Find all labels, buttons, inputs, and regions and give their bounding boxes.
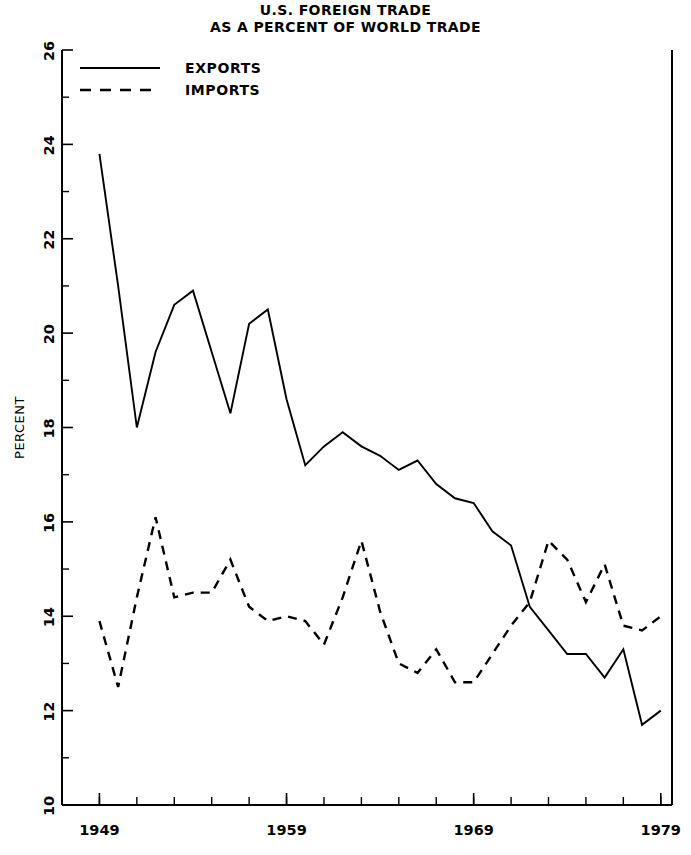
x-tick-label: 1959 [266,822,306,838]
chart-legend: EXPORTS IMPORTS [80,60,262,98]
y-tick-label: 16 [41,513,57,533]
x-tick-label: 1979 [641,822,681,838]
y-tick-label: 14 [41,607,57,627]
x-tick-label: 1969 [453,822,493,838]
y-tick-label: 12 [41,702,57,722]
y-axis-ticks [62,50,73,805]
series-line-imports [99,517,660,687]
axes-group [62,50,672,805]
legend-label-exports: EXPORTS [185,60,262,76]
y-tick-label: 18 [41,418,57,438]
x-axis-tick-labels: 1949195919691979 [79,822,681,838]
chart-figure: U.S. FOREIGN TRADE AS A PERCENT OF WORLD… [0,0,691,855]
chart-plot-area: 101214161820222426 1949195919691979 PERC… [0,0,691,855]
y-axis-tick-labels: 101214161820222426 [41,41,57,816]
legend-label-imports: IMPORTS [185,82,260,98]
y-tick-label: 24 [41,135,57,155]
y-tick-label: 20 [41,324,57,344]
y-tick-label: 22 [41,230,57,250]
series-line-exports [99,154,660,725]
y-tick-label: 10 [41,796,57,816]
series-group [99,154,660,725]
x-axis-ticks [62,793,661,805]
x-tick-label: 1949 [79,822,119,838]
y-tick-label: 26 [41,41,57,61]
y-axis-title: PERCENT [12,396,27,459]
